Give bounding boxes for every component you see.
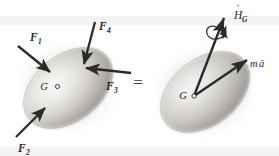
ma-symbol-a-bar: ā	[259, 58, 265, 69]
force-label-f3-symbol: F	[105, 80, 114, 92]
figure-container: G F 1 F 2 F 3	[0, 0, 279, 156]
force-label-f4-symbol: F	[98, 20, 107, 32]
mass-times-acceleration-label: m ā	[250, 58, 265, 69]
left-center-of-mass-label: G	[40, 81, 48, 92]
equals-sign: =	[133, 73, 143, 92]
right-center-of-mass-marker	[192, 94, 196, 98]
force-label-f2-symbol: F	[17, 142, 26, 154]
force-label-f3-subscript: 3	[113, 86, 118, 95]
right-center-of-mass-label: G	[179, 90, 187, 101]
dynamics-equivalence-figure: G F 1 F 2 F 3	[0, 0, 279, 156]
force-label-f1-symbol: F	[29, 31, 38, 43]
h-dot-subscript: G	[242, 15, 248, 24]
force-label-f1-subscript: 1	[38, 37, 42, 46]
force-label-f2-subscript: 2	[25, 148, 30, 156]
ma-symbol-m: m	[250, 58, 258, 69]
force-label-f4-subscript: 4	[106, 26, 111, 35]
